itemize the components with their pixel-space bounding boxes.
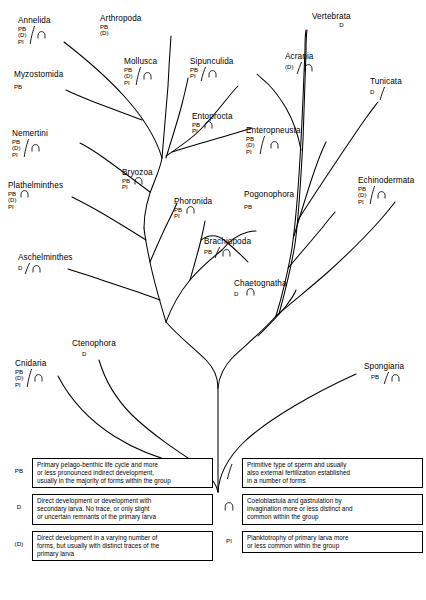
- branch-protostome-spine: [144, 228, 166, 322]
- taxon-label: Brachiopoda: [204, 237, 251, 246]
- taxon-symbols: [379, 86, 385, 101]
- taxon-codes: PB PI: [174, 207, 182, 220]
- taxon-label: Spongiaria: [364, 362, 404, 371]
- taxon-label: Plathelminthes: [8, 181, 63, 190]
- taxon-myzostomida: Myzostomida PB: [14, 70, 63, 90]
- taxon-phoronida: Phoronida PB PI: [174, 197, 212, 220]
- legend-line: primary larva: [37, 550, 209, 558]
- legend-row-d-paren: (D) Direct development in a varying numb…: [6, 531, 213, 561]
- sperm-icon: [214, 246, 220, 259]
- sperm-icon: [23, 138, 29, 158]
- legend-key-pb: PB: [6, 458, 32, 475]
- taxon-codes: PB: [14, 84, 22, 90]
- taxon-label: Bryozoa: [122, 168, 153, 177]
- legend-key-d-parenthesized: (D): [6, 531, 32, 548]
- legend: PB Primary pelago-benthic life cycle and…: [0, 458, 426, 600]
- sperm-icon: [200, 66, 206, 82]
- taxon-codes-group: (D): [285, 61, 313, 75]
- branch-mollusca: [166, 78, 188, 158]
- taxon-codes-group: PB PI: [190, 66, 233, 82]
- legend-line: Primitive type of sperm and usually: [247, 461, 419, 469]
- taxon-codes-group: PB: [244, 199, 294, 210]
- taxon-symbols: [259, 135, 279, 155]
- taxon-codes-group: PB (D) PI: [8, 190, 63, 210]
- coeloblastula-arch-icon: [186, 206, 195, 214]
- legend-line: Direct development or development with: [37, 497, 209, 505]
- taxon-codes: PB (D) PI: [124, 67, 133, 86]
- coeloblastula-arch-icon: [134, 177, 143, 185]
- taxon-codes: D: [82, 351, 86, 357]
- taxon-codes-group: PB (D) PI: [18, 25, 51, 45]
- sperm-icon: [296, 61, 302, 75]
- taxon-label: Sipunculida: [190, 57, 233, 66]
- legend-line: common within the group: [247, 513, 419, 521]
- sperm-icon: [24, 262, 30, 275]
- legend-line: Direct development in a varying number o…: [37, 534, 209, 542]
- taxon-plathelminthes: Plathelminthes PB (D) PI: [8, 181, 63, 210]
- coeloblastula-arch-icon: [377, 191, 386, 199]
- legend-row-pb: PB Primary pelago-benthic life cycle and…: [6, 458, 213, 488]
- coeloblastula-arch-icon: [391, 374, 400, 382]
- legend-line: Primary pelago-benthic life cycle and mo…: [37, 461, 209, 469]
- coeloblastula-arch-icon: [32, 265, 41, 273]
- taxon-ctenophora: Ctenophora D: [72, 339, 116, 357]
- legend-row-pi: PI Planktotrophy of primary larva more o…: [216, 531, 423, 553]
- branch-lophophorate-stem: [166, 250, 222, 322]
- coeloblastula-arch-icon: [222, 249, 231, 257]
- branch-plathelminthes: [72, 197, 146, 240]
- taxon-label: Annelida: [18, 16, 51, 25]
- taxon-label: Chaetognatha: [234, 279, 287, 288]
- taxon-codes: PB: [204, 249, 212, 255]
- taxon-codes: D: [234, 291, 238, 297]
- taxon-sipunculida: Sipunculida PB PI: [190, 57, 233, 82]
- taxon-label: Ctenophora: [72, 339, 116, 348]
- taxon-arthropoda: Arthropoda PB (D): [100, 14, 142, 37]
- taxon-label: Cnidaria: [15, 359, 46, 368]
- coeloblastula-arch-icon: [20, 190, 29, 198]
- taxon-codes: PB (D) PI: [358, 186, 367, 205]
- taxon-codes: PB PI: [122, 178, 130, 191]
- taxon-codes: PB (D) PI: [18, 26, 27, 45]
- coeloblastula-arch-icon: [224, 502, 234, 511]
- taxon-symbols: [23, 138, 40, 158]
- branch-echinodermata: [276, 202, 395, 316]
- taxon-symbols: [369, 185, 386, 205]
- legend-key-coeloblastula: [216, 494, 242, 511]
- taxon-label: Entoprocta: [192, 112, 233, 121]
- legend-line: forms, but usually with distinct traces …: [37, 542, 209, 550]
- taxon-acrania: Acrania (D): [285, 52, 313, 75]
- coeloblastula-arch-icon: [270, 141, 279, 149]
- taxon-enteropneusta: Enteropneusta PB (D) PI: [246, 126, 301, 155]
- legend-row-coeloblastula: Coeloblastula and gastrulation by invagi…: [216, 494, 423, 524]
- coeloblastula-arch-icon: [304, 64, 313, 72]
- legend-text-pi: Planktotrophy of primary larva more or l…: [242, 531, 423, 553]
- taxon-brachiopoda: Brachiopoda PB: [204, 237, 251, 259]
- sperm-icon: [26, 368, 32, 388]
- taxon-codes: PB: [244, 204, 252, 210]
- taxon-bryozoa: Bryozoa PB PI: [122, 168, 153, 191]
- taxon-codes: PB (D) PI: [12, 139, 21, 158]
- taxon-symbols: [24, 262, 41, 275]
- taxon-label: Vertebrata: [312, 12, 351, 21]
- sperm-icon: [259, 135, 265, 155]
- taxon-label: Tunicata: [370, 77, 402, 86]
- taxon-mollusca: Mollusca PB (D) PI: [124, 57, 157, 86]
- taxon-codes-group: D: [312, 21, 351, 28]
- taxon-aschelminthes: Aschelminthes D: [18, 253, 73, 275]
- taxon-codes-group: PB (D) PI: [358, 185, 414, 205]
- legend-key-sperm: [216, 458, 242, 480]
- taxon-codes-group: PB: [364, 371, 404, 385]
- taxon-annelida: Annelida PB (D) PI: [18, 16, 51, 45]
- coeloblastula-arch-icon: [246, 288, 255, 296]
- legend-line: or less pronounced indirect development,: [37, 469, 209, 477]
- taxon-cnidaria: Cnidaria PB (D) PI: [15, 359, 46, 388]
- phylogenetic-tree-figure: Annelida PB (D) PI Arthropoda PB (D): [0, 0, 426, 600]
- taxon-codes-group: PB PI: [174, 206, 212, 220]
- taxon-symbols: [26, 368, 43, 388]
- taxon-codes: (D): [285, 64, 294, 70]
- taxon-codes-group: PB: [14, 79, 63, 90]
- taxon-label: Echinodermata: [358, 176, 414, 185]
- taxon-pogonophora: Pogonophora PB: [244, 190, 294, 210]
- taxon-codes: D: [370, 89, 374, 95]
- coeloblastula-arch-icon: [143, 72, 152, 80]
